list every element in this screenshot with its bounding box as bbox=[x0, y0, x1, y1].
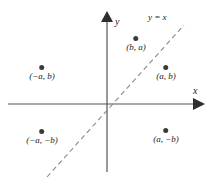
y-equals-x-dashed-line bbox=[47, 25, 184, 177]
x-axis-arrowhead bbox=[193, 98, 205, 110]
y-axis-label: y bbox=[115, 17, 119, 27]
plotted-point-a-b: (a, b) bbox=[156, 65, 176, 82]
point-dot bbox=[163, 128, 168, 133]
plotted-point-neg-a-neg-b: (−a, −b) bbox=[26, 129, 58, 146]
x-axis-label: x bbox=[193, 86, 197, 96]
point-dot bbox=[39, 65, 44, 70]
y-axis-arrowhead bbox=[101, 11, 113, 22]
reference-line-label: y = x bbox=[148, 12, 167, 22]
plotted-point-a-neg-b: (a, −b) bbox=[153, 128, 179, 145]
plotted-point-b-a: (b, a) bbox=[126, 36, 146, 53]
point-dot bbox=[39, 129, 44, 134]
axes-and-line-layer bbox=[0, 0, 212, 179]
point-dot bbox=[134, 36, 139, 41]
point-dot bbox=[164, 65, 169, 70]
plotted-point-neg-a-b: (−a, b) bbox=[29, 65, 55, 82]
point-label: (a, −b) bbox=[153, 134, 179, 145]
point-label: (−a, −b) bbox=[26, 135, 58, 146]
point-label: (b, a) bbox=[126, 42, 146, 53]
coordinate-plane-figure: y x y = x (b, a) (−a, b) (a, b) (−a, −b)… bbox=[0, 0, 212, 179]
point-label: (−a, b) bbox=[29, 71, 55, 82]
point-label: (a, b) bbox=[156, 71, 176, 82]
